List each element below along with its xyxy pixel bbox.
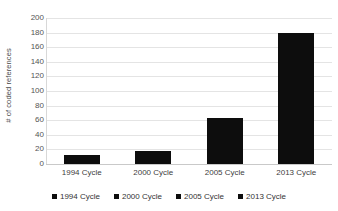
bar xyxy=(64,155,100,164)
legend-square-icon xyxy=(176,194,181,199)
x-axis-tick-label: 1994 Cycle xyxy=(46,168,118,178)
y-axis-tick-label: 160 xyxy=(18,43,44,51)
y-axis-tick-label: 60 xyxy=(18,116,44,124)
bar xyxy=(135,151,171,164)
bar-series xyxy=(46,18,332,164)
y-axis-tick-label: 40 xyxy=(18,131,44,139)
y-axis-tick-labels: 020406080100120140160180200 xyxy=(18,14,44,164)
legend-item[interactable]: 1994 Cycle xyxy=(52,192,100,201)
chart-legend: 1994 Cycle2000 Cycle2005 Cycle2013 Cycle xyxy=(0,189,338,203)
y-axis-tick-label: 0 xyxy=(18,160,44,168)
x-axis-tick-labels: 1994 Cycle2000 Cycle2005 Cycle2013 Cycle xyxy=(46,168,332,182)
plot-area xyxy=(46,18,332,164)
y-axis-title: # of coded references xyxy=(0,0,16,170)
bar xyxy=(207,118,243,164)
legend-item[interactable]: 2013 Cycle xyxy=(238,192,286,201)
legend-square-icon xyxy=(52,194,57,199)
legend-item-label: 2005 Cycle xyxy=(184,192,224,201)
x-axis-tick-label: 2000 Cycle xyxy=(118,168,190,178)
legend-item[interactable]: 2000 Cycle xyxy=(114,192,162,201)
x-axis-tick-label: 2005 Cycle xyxy=(189,168,261,178)
y-axis-tick-label: 140 xyxy=(18,58,44,66)
y-axis-tick-label: 200 xyxy=(18,14,44,22)
y-axis-tick-label: 80 xyxy=(18,102,44,110)
y-axis-title-label: # of coded references xyxy=(4,48,13,123)
legend-square-icon xyxy=(238,194,243,199)
legend-item-label: 2000 Cycle xyxy=(122,192,162,201)
gridline xyxy=(46,164,332,165)
legend-square-icon xyxy=(114,194,119,199)
bar xyxy=(278,33,314,164)
legend-item-label: 1994 Cycle xyxy=(60,192,100,201)
y-axis-tick-label: 180 xyxy=(18,29,44,37)
y-axis-tick-label: 100 xyxy=(18,87,44,95)
legend-item[interactable]: 2005 Cycle xyxy=(176,192,224,201)
y-axis-tick-label: 20 xyxy=(18,145,44,153)
y-axis-tick-label: 120 xyxy=(18,72,44,80)
legend-item-label: 2013 Cycle xyxy=(246,192,286,201)
bar-chart: # of coded references 020406080100120140… xyxy=(0,0,338,211)
x-axis-tick-label: 2013 Cycle xyxy=(261,168,333,178)
